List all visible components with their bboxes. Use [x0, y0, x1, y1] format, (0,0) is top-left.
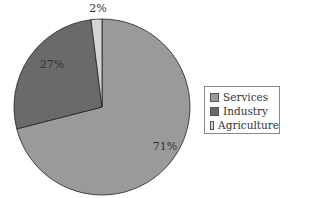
legend-label-industry: Industry — [223, 105, 268, 117]
legend-label-agriculture: Agriculture — [218, 119, 279, 131]
legend-item-services: Services — [210, 90, 279, 104]
legend-item-industry: Industry — [210, 104, 279, 118]
legend-label-services: Services — [223, 91, 268, 103]
legend: Services Industry Agriculture — [204, 86, 280, 134]
data-label-agriculture: 2% — [89, 2, 106, 15]
data-label-industry: 27% — [40, 58, 64, 71]
legend-swatch-agriculture — [210, 121, 214, 130]
legend-swatch-industry — [210, 107, 219, 116]
legend-swatch-services — [210, 93, 219, 102]
data-label-services: 71% — [153, 140, 177, 153]
legend-item-agriculture: Agriculture — [210, 118, 279, 132]
